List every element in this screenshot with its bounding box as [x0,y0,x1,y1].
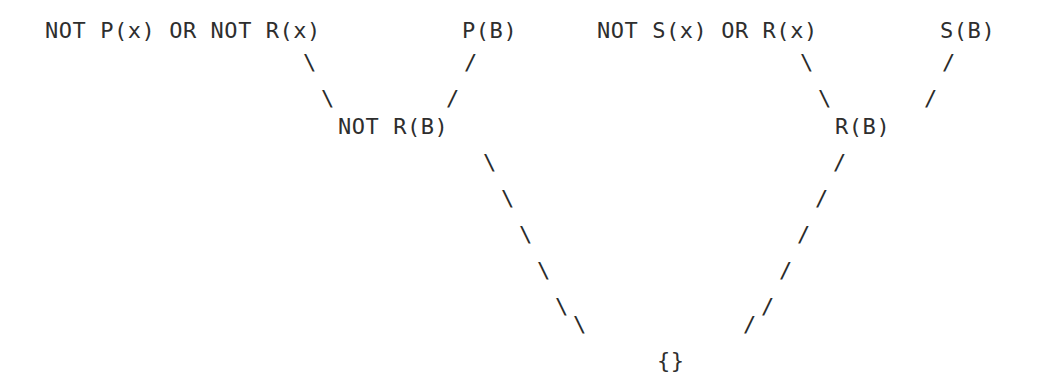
edge-stroke-backslash: \ [537,258,551,284]
edge-stroke-slash: / [761,294,775,320]
edge-stroke-backslash: \ [501,186,515,212]
edge-stroke-slash: / [833,150,847,176]
edge-stroke-slash: / [743,312,757,338]
edge-stroke-backslash: \ [519,222,533,248]
edge-stroke-slash: / [815,186,829,212]
edge-stroke-backslash: \ [483,150,497,176]
edge-stroke-slash: / [446,86,460,112]
edge-stroke-backslash: \ [555,294,569,320]
clause-empty-clause: {} [657,348,685,374]
clause-resolvent-not-r-b: NOT R(B) [338,114,448,140]
edge-stroke-slash: / [942,50,956,76]
clause-resolvent-r-b: R(B) [835,114,890,140]
clause-premise-not-s-or-r: NOT S(x) OR R(x) [597,18,818,44]
edge-stroke-backslash: \ [800,50,814,76]
edge-stroke-slash: / [464,50,478,76]
edge-stroke-slash: / [924,86,938,112]
edge-stroke-slash: / [779,258,793,284]
clause-premise-s-b: S(B) [940,18,995,44]
resolution-proof-tree: NOT P(x) OR NOT R(x)P(B)NOT S(x) OR R(x)… [0,0,1044,392]
edge-stroke-backslash: \ [818,86,832,112]
edge-stroke-backslash: \ [573,312,587,338]
clause-premise-not-p-or-not-r: NOT P(x) OR NOT R(x) [45,18,321,44]
edge-stroke-slash: / [797,222,811,248]
clause-premise-p-b: P(B) [462,18,517,44]
edge-stroke-backslash: \ [321,86,335,112]
edge-stroke-backslash: \ [303,50,317,76]
